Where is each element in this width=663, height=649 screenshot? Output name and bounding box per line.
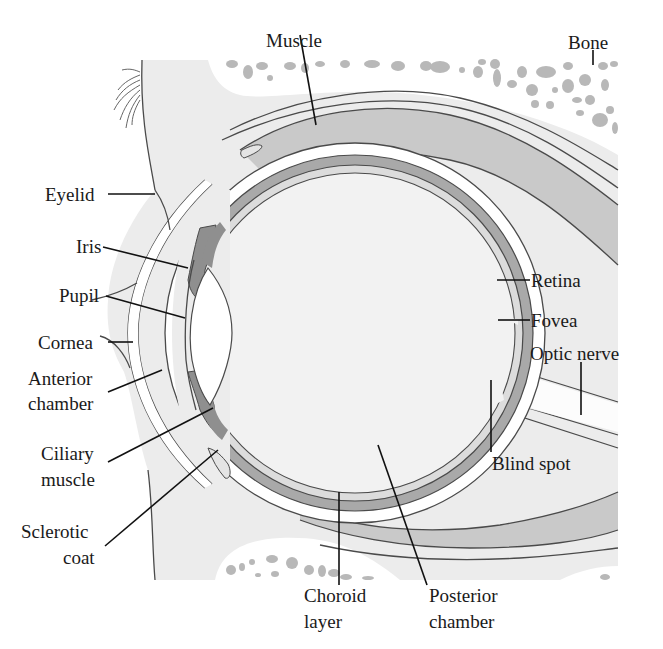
label-posterior-chamber: chamber xyxy=(429,611,495,632)
label-choroid-layer: Choroid xyxy=(304,585,367,606)
label-cornea: Cornea xyxy=(38,332,93,353)
label-fovea: Fovea xyxy=(531,310,578,331)
label-anterior-chamber: Anterior xyxy=(28,368,93,389)
label-posterior-chamber: Posterior xyxy=(429,585,498,606)
label-sclerotic-coat: Sclerotic xyxy=(21,521,89,542)
posterior-chamber xyxy=(195,173,515,493)
label-optic-nerve: Optic nerve xyxy=(530,343,619,364)
label-ciliary-muscle: muscle xyxy=(41,469,95,490)
eye-diagram: Muscle Bone Eyelid Iris Pupil Cornea Ant… xyxy=(0,0,663,649)
label-anterior-chamber: chamber xyxy=(28,393,94,414)
label-pupil: Pupil xyxy=(59,285,99,306)
label-sclerotic-coat: coat xyxy=(63,547,95,568)
label-bone: Bone xyxy=(568,32,608,53)
label-muscle: Muscle xyxy=(266,30,322,51)
label-blind-spot: Blind spot xyxy=(492,453,571,474)
label-eyelid: Eyelid xyxy=(45,184,95,205)
label-ciliary-muscle: Ciliary xyxy=(41,443,94,464)
label-choroid-layer: layer xyxy=(304,611,343,632)
label-retina: Retina xyxy=(531,270,581,291)
label-iris: Iris xyxy=(76,236,101,257)
